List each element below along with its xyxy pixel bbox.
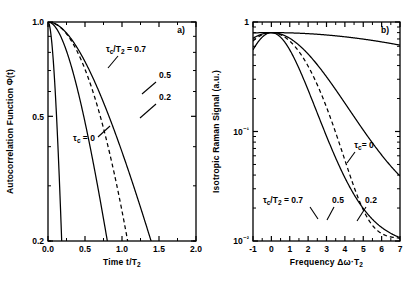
panel-b-annotation-0.5: 0.5 <box>332 195 344 205</box>
panel-b-yticklabel: 10⁻¹ <box>233 126 249 137</box>
panel-a-xticklabel: 2.0 <box>190 244 202 254</box>
figure-container: 0.00.51.01.52.00.20.51.0τc/T2 = 0.70.50.… <box>0 0 417 292</box>
panel-b-xticklabel: 7 <box>398 244 403 254</box>
panel-b-curve <box>253 33 400 238</box>
panel-b-annotation-0.7: τc/T2 = 0.7 <box>263 195 303 206</box>
panel-b-xticklabel: 2 <box>306 244 311 254</box>
panel-a-leader <box>142 82 156 94</box>
panel-a-annotation-0.7: τc/T2 = 0.7 <box>106 44 146 55</box>
panel-b-leader <box>310 207 318 219</box>
panel-b-xticklabel: 4 <box>343 244 348 254</box>
figure-canvas: 0.00.51.01.52.00.20.51.0τc/T2 = 0.70.50.… <box>0 0 417 292</box>
panel-b-annotation-0: τc= 0 <box>354 140 374 151</box>
panel-b-xticklabel: 3 <box>324 244 329 254</box>
panel-a-yaxis-title: Autocorrelation Function Φ(t) <box>5 69 15 194</box>
panel-b-label: b) <box>381 25 389 35</box>
panel-b-xticklabel: 0 <box>269 244 274 254</box>
panel-b-annotation-0.2: 0.2 <box>365 195 377 205</box>
panel-a-yticklabel: 0.2 <box>32 236 44 246</box>
panel-b-leader <box>347 152 355 163</box>
panel-b-curve <box>253 33 400 46</box>
panel-a-annotation-0.5: 0.5 <box>159 70 171 80</box>
panel-a-annotation-0: τc = 0 <box>73 133 95 144</box>
panel-b-yticklabel: 1 <box>244 17 249 27</box>
panel-a-leader <box>98 126 110 137</box>
panel-a-yticklabel: 0.5 <box>32 112 44 122</box>
panel-b-xticklabel: -1 <box>249 244 257 254</box>
panel-a-curve <box>48 22 154 252</box>
panel-b-xticklabel: 6 <box>379 244 384 254</box>
panel-a-yticklabel: 1.0 <box>32 17 44 27</box>
panel-b-frame <box>253 22 400 241</box>
panel-b-xticklabel: 5 <box>361 244 366 254</box>
panel-a-xaxis-title: Time t/T2 <box>103 257 141 268</box>
panel-b-yticklabel: 10⁻² <box>233 235 249 246</box>
panel-a-xticklabel: 1.0 <box>116 244 128 254</box>
panel-a-xticklabel: 1.5 <box>153 244 165 254</box>
panel-a-leader <box>108 56 118 68</box>
panel-a-curve <box>48 22 62 252</box>
figure-caption <box>6 282 411 291</box>
panel-a-xticklabel: 0.5 <box>79 244 91 254</box>
panel-b-yaxis-title: Isotropic Raman Signal (a.u.) <box>211 70 221 193</box>
panel-a-label: a) <box>177 25 185 35</box>
panel-a-leader <box>140 104 156 118</box>
panel-b-curve <box>253 33 400 176</box>
panel-b-leader <box>327 207 334 220</box>
panel-b-xticklabel: 1 <box>287 244 292 254</box>
panel-b-xaxis-title: Frequency Δω·T2 <box>290 257 363 268</box>
panel-a-annotation-0.2: 0.2 <box>159 92 171 102</box>
